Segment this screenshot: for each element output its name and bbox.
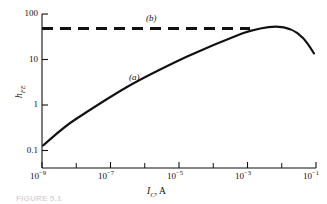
x-tick-exp-1e-7: −7: [107, 169, 114, 176]
series-a-label: (a): [129, 72, 140, 82]
x-axis-subscript: C: [150, 191, 155, 199]
x-axis-ticks: [42, 162, 316, 168]
x-tick-label-1e-5: 10−5: [167, 172, 183, 181]
x-tick-exp-1e-5: −5: [176, 169, 183, 176]
y-tick-label-1: 1: [18, 100, 38, 109]
x-axis-title: IC, A: [147, 186, 166, 196]
x-tick-label-1e-7: 10−7: [98, 172, 114, 181]
y-tick-label-10: 10: [18, 55, 38, 64]
series-a-curve: [43, 27, 314, 146]
x-tick-label-1e-9: 10−9: [30, 172, 46, 181]
series-b-label: (b): [146, 13, 157, 23]
y-axis-ticks: [42, 14, 48, 151]
y-axis-subscript: FE: [19, 85, 26, 93]
figure-caption: FIGURE 5.1: [16, 194, 62, 203]
x-tick-exp-1e-1: −1: [312, 169, 319, 176]
x-tick-exp-1e-9: −9: [39, 169, 46, 176]
axis-lines: [42, 14, 316, 168]
y-tick-label-100: 100: [18, 9, 38, 18]
x-tick-exp-1e-3: −3: [244, 169, 251, 176]
y-axis-title: hFE: [14, 85, 24, 98]
figure-container: 100 10 1 0.1 10−9 10−7 10−5 10−3 10−1 IC…: [0, 0, 327, 204]
y-tick-label-0.1: 0.1: [14, 146, 38, 155]
chart-plot-area: [0, 0, 327, 204]
x-tick-label-1e-3: 10−3: [235, 172, 251, 181]
x-tick-label-1e-1: 10−1: [303, 172, 319, 181]
